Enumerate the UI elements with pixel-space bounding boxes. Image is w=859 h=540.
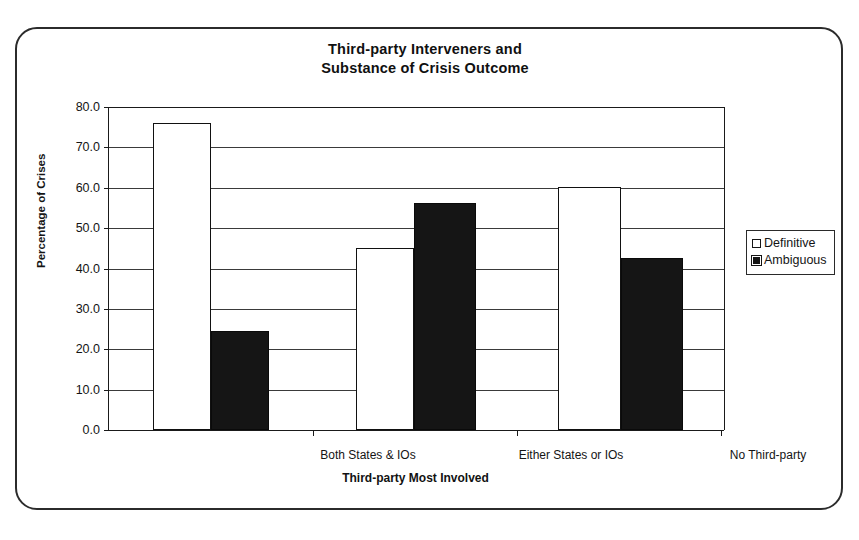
- y-tick-mark: [104, 147, 109, 148]
- y-tick-mark: [104, 269, 109, 270]
- bar-definitive-2: [356, 248, 414, 430]
- chart-legend: Definitive Ambiguous: [746, 230, 835, 275]
- y-tick-mark: [104, 390, 109, 391]
- y-tick-mark: [104, 107, 109, 108]
- y-tick-label: 20.0: [76, 342, 100, 356]
- bar-ambiguous-2: [414, 203, 476, 430]
- bar-ambiguous-3: [621, 258, 683, 430]
- y-tick-label: 50.0: [76, 221, 100, 235]
- y-tick-label: 0.0: [83, 423, 100, 437]
- x-tick-mark: [313, 430, 314, 436]
- x-tick-mark: [517, 430, 518, 436]
- bar-definitive-3: [558, 187, 621, 430]
- y-tick-mark: [104, 188, 109, 189]
- y-tick-label: 70.0: [76, 140, 100, 154]
- legend-item-ambiguous[interactable]: Ambiguous: [752, 252, 827, 269]
- y-tick-mark: [104, 228, 109, 229]
- bar-definitive-1: [153, 123, 211, 430]
- x-tick-mark: [721, 430, 722, 436]
- plot-area: 0.010.020.030.040.050.060.070.080.0: [108, 107, 724, 431]
- y-tick-label: 60.0: [76, 181, 100, 195]
- bar-ambiguous-1: [211, 331, 269, 430]
- y-tick-label: 40.0: [76, 262, 100, 276]
- legend-label-definitive: Definitive: [764, 235, 815, 252]
- x-category-label: Either States or IOs: [519, 448, 624, 462]
- chart-title-line-1: Third-party Interveners and: [328, 41, 522, 57]
- hollow-square-icon: [752, 239, 761, 248]
- filled-square-icon: [752, 256, 761, 265]
- y-tick-label: 30.0: [76, 302, 100, 316]
- legend-item-definitive[interactable]: Definitive: [752, 235, 827, 252]
- y-axis-title: Percentage of Crises: [35, 154, 47, 268]
- y-tick-mark: [104, 309, 109, 310]
- y-tick-mark: [104, 349, 109, 350]
- x-axis-title: Third-party Most Involved: [108, 471, 723, 485]
- x-category-label: No Third-party: [730, 448, 806, 462]
- legend-label-ambiguous: Ambiguous: [764, 252, 827, 269]
- chart-title-line-2: Substance of Crisis Outcome: [120, 59, 730, 78]
- x-category-label: Both States & IOs: [320, 448, 415, 462]
- y-tick-mark: [104, 430, 109, 431]
- bar-chart: Third-party Interveners and Substance of…: [0, 0, 859, 540]
- chart-title: Third-party Interveners and Substance of…: [120, 40, 730, 78]
- y-tick-label: 80.0: [76, 100, 100, 114]
- y-tick-label: 10.0: [76, 383, 100, 397]
